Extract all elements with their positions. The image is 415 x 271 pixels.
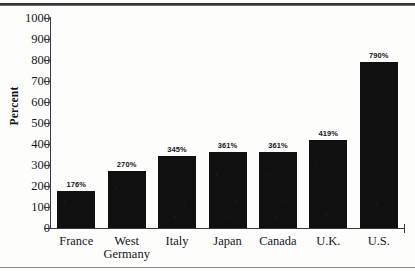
bottom-rule	[0, 267, 415, 268]
bar	[57, 191, 95, 228]
bar-chart-figure: Percent 10009008007006005004003002001000…	[0, 0, 415, 271]
bar-value-label: 419%	[298, 129, 358, 138]
y-axis-line	[50, 17, 51, 229]
x-axis-end-tick	[404, 224, 405, 233]
bar-value-label: 176%	[46, 180, 106, 189]
bar-value-label: 790%	[349, 51, 409, 60]
bar-value-label: 361%	[248, 141, 308, 150]
x-axis-line	[50, 228, 405, 229]
bar	[309, 140, 347, 228]
bar	[360, 62, 398, 228]
bar	[209, 152, 247, 228]
category-label: U.S.	[345, 235, 413, 248]
bar	[158, 156, 196, 228]
bar-value-label: 270%	[97, 160, 157, 169]
top-rule	[0, 3, 415, 6]
bar	[108, 171, 146, 228]
bar	[259, 152, 297, 228]
